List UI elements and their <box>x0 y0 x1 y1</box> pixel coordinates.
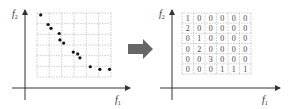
matrix-cell: 0 <box>197 24 201 33</box>
matrix-cell: 1 <box>243 65 247 74</box>
matrix-cell: 0 <box>209 14 213 23</box>
matrix-cell: 0 <box>186 45 190 54</box>
scatter-point <box>49 27 52 30</box>
matrix-cell: 0 <box>209 34 213 43</box>
matrix-cell: 0 <box>232 14 236 23</box>
matrix-cell: 0 <box>243 24 247 33</box>
scatter-point <box>89 65 92 68</box>
matrix-cell: 0 <box>243 55 247 64</box>
matrix-cell: 1 <box>197 34 201 43</box>
right-x-label: f1 <box>262 94 268 106</box>
left-scatter-points <box>39 13 111 71</box>
matrix-cell: 0 <box>186 34 190 43</box>
matrix-cell: 0 <box>232 55 236 64</box>
matrix-cell: 0 <box>232 45 236 54</box>
right-y-label: f2 <box>159 8 165 20</box>
matrix-cell: 0 <box>232 34 236 43</box>
scatter-point <box>78 56 81 59</box>
matrix-cell: 2 <box>197 45 201 54</box>
left-x-label: f1 <box>115 94 121 106</box>
scatter-point <box>76 52 79 55</box>
matrix-cell: 0 <box>220 14 224 23</box>
matrix-cell: 0 <box>197 65 201 74</box>
scatter-point <box>98 68 101 71</box>
matrix-cell: 1 <box>220 65 224 74</box>
scatter-point <box>58 38 61 41</box>
matrix-cell: 0 <box>220 34 224 43</box>
right-panel: f2 f1 1000002000000100000200000030000001… <box>159 8 280 106</box>
matrix-cell: 0 <box>209 24 213 33</box>
scatter-point <box>58 32 61 35</box>
matrix-cell: 0 <box>197 14 201 23</box>
matrix-cell: 3 <box>209 55 213 64</box>
matrix-cell: 0 <box>209 65 213 74</box>
scatter-point <box>72 50 75 53</box>
left-y-label: f2 <box>12 8 18 20</box>
matrix-cell: 0 <box>243 14 247 23</box>
matrix-cell: 1 <box>232 65 236 74</box>
matrix-cell: 0 <box>186 65 190 74</box>
matrix-cell: 0 <box>220 45 224 54</box>
matrix-cell: 0 <box>243 45 247 54</box>
matrix-cell: 2 <box>186 24 190 33</box>
left-grid <box>37 13 111 77</box>
transform-arrow-icon <box>128 39 153 59</box>
matrix-cell: 1 <box>186 14 190 23</box>
diagram-canvas: f2 f1 f2 f1 1000002000000100000200000030… <box>0 0 289 109</box>
matrix-cell: 0 <box>197 55 201 64</box>
matrix-cell: 0 <box>220 24 224 33</box>
matrix-cell: 0 <box>186 55 190 64</box>
matrix-cell: 0 <box>209 45 213 54</box>
scatter-point <box>39 13 42 16</box>
matrix-cell: 0 <box>232 24 236 33</box>
matrix-cell: 0 <box>220 55 224 64</box>
right-matrix-grid <box>182 13 251 74</box>
scatter-point <box>62 41 65 44</box>
left-panel: f2 f1 <box>12 8 130 106</box>
matrix-cell: 0 <box>243 34 247 43</box>
scatter-point <box>108 68 111 71</box>
scatter-point <box>47 23 50 26</box>
